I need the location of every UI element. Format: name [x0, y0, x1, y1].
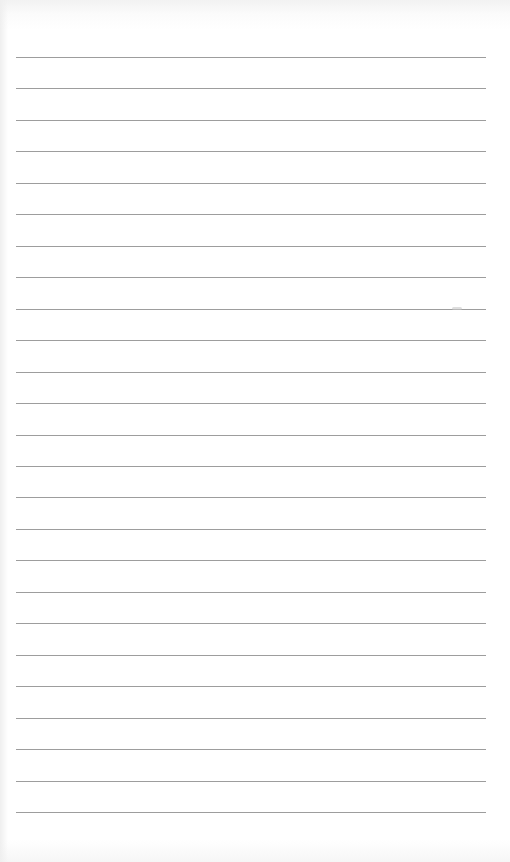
ruled-line [16, 151, 486, 152]
ruled-line [16, 718, 486, 719]
ruled-line [16, 309, 486, 310]
pencil-smudge [452, 307, 462, 310]
ruled-line [16, 781, 486, 782]
ruled-line [16, 497, 486, 498]
page-edge-shadow [0, 0, 8, 862]
ruled-line [16, 340, 486, 341]
ruled-line [16, 372, 486, 373]
ruled-line [16, 57, 486, 58]
ruled-line [16, 435, 486, 436]
ruled-line [16, 120, 486, 121]
ruled-line [16, 655, 486, 656]
ruled-line [16, 529, 486, 530]
ruled-line [16, 183, 486, 184]
notebook-page [0, 0, 510, 862]
ruled-line [16, 812, 486, 813]
ruled-line [16, 277, 486, 278]
ruled-line [16, 686, 486, 687]
ruled-line [16, 749, 486, 750]
ruled-line [16, 623, 486, 624]
ruled-line [16, 560, 486, 561]
ruled-line [16, 214, 486, 215]
ruled-line [16, 592, 486, 593]
ruled-line [16, 88, 486, 89]
ruled-line [16, 246, 486, 247]
ruled-line [16, 403, 486, 404]
ruled-line [16, 466, 486, 467]
